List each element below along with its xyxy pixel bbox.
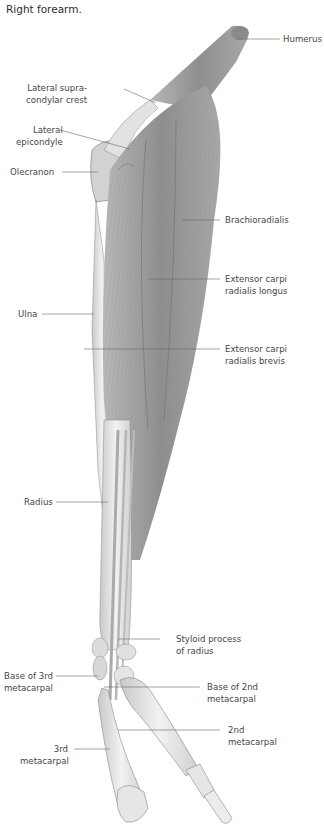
label-3rd-metacarpal: 3rd metacarpal [20,743,68,767]
label-olecranon: Olecranon [10,166,54,178]
label-ulna: Ulna [18,308,37,320]
label-2nd-metacarpal: 2nd metacarpal [228,724,277,748]
label-lateral-epicondyle: Lateral epicondyle [16,124,63,148]
label-extensor-carpi-radialis-brevis: Extensor carpi radialis brevis [225,343,287,367]
label-lateral-supracondylar-crest: Lateral supra- condylar crest [26,82,87,106]
label-brachioradialis: Brachioradialis [225,214,289,226]
label-humerus: Humerus [283,33,322,45]
label-radius: Radius [24,496,53,508]
label-base-of-2nd-metacarpal: Base of 2nd metacarpal [207,681,258,705]
label-base-of-3rd-metacarpal: Base of 3rd metacarpal [4,670,53,694]
label-extensor-carpi-radialis-longus: Extensor carpi radialis longus [225,273,287,297]
label-styloid-process-of-radius: Styloid process of radius [176,633,241,657]
